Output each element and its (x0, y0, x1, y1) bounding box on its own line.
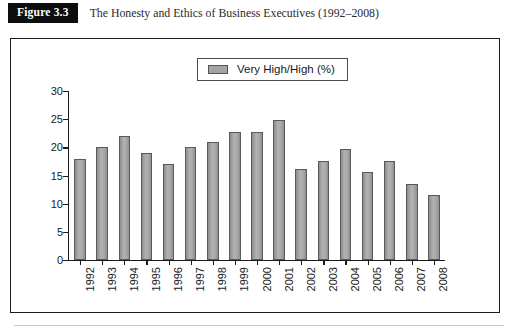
x-tick-label-2007: 2007 (416, 267, 427, 291)
y-tick-mark (63, 147, 68, 148)
bar-1997 (185, 147, 197, 260)
bar-2003 (318, 161, 330, 260)
figure-caption-row: Figure 3.3 The Honesty and Ethics of Bus… (0, 0, 518, 26)
bar-1998 (207, 142, 219, 260)
x-tick-label-1999: 1999 (239, 267, 250, 291)
bar-2004 (340, 149, 352, 260)
y-tick-mark (63, 204, 68, 205)
y-tick-label-20: 20 (51, 142, 63, 153)
bar-2001 (273, 120, 285, 260)
x-tick-label-2008: 2008 (438, 267, 449, 291)
y-tick-mark (63, 232, 68, 233)
x-tick-mark (80, 260, 81, 265)
bar-2005 (362, 172, 374, 260)
x-tick-label-2001: 2001 (284, 267, 295, 291)
x-tick-mark (345, 260, 346, 265)
page-bottom-rule (14, 325, 504, 326)
y-axis-labels: 051015202530 (33, 91, 63, 259)
x-tick-label-1998: 1998 (217, 267, 228, 291)
bars-layer (69, 91, 445, 260)
bar-2007 (406, 184, 418, 260)
y-tick-mark (63, 260, 68, 261)
bar-1999 (229, 132, 241, 260)
figure-number-badge: Figure 3.3 (8, 3, 78, 24)
x-tick-mark (146, 260, 147, 265)
y-tick-label-30: 30 (51, 86, 63, 97)
legend-label-very-high-high: Very High/High (%) (237, 63, 335, 75)
bar-1992 (74, 159, 86, 260)
x-tick-label-1992: 1992 (85, 267, 96, 291)
bar-2002 (295, 169, 307, 260)
x-tick-mark (412, 260, 413, 265)
x-tick-mark (301, 260, 302, 265)
x-tick-label-1993: 1993 (107, 267, 118, 291)
bar-2008 (428, 195, 440, 260)
y-tick-label-10: 10 (51, 198, 63, 209)
x-tick-mark (323, 260, 324, 265)
x-tick-label-1994: 1994 (129, 267, 140, 291)
x-tick-mark (235, 260, 236, 265)
x-tick-mark (213, 260, 214, 265)
bar-1995 (141, 153, 153, 260)
figure-caption-text: The Honesty and Ethics of Business Execu… (90, 6, 379, 21)
chart-legend: Very High/High (%) (197, 58, 348, 81)
x-tick-mark (124, 260, 125, 265)
y-tick-label-25: 25 (51, 114, 63, 125)
x-tick-mark (279, 260, 280, 265)
bar-2000 (251, 132, 263, 260)
chart-plot-area: Very High/High (%) 051015202530 19921993… (11, 39, 501, 314)
figure-frame: Very High/High (%) 051015202530 19921993… (10, 38, 500, 313)
legend-swatch-icon (208, 65, 228, 74)
x-tick-mark (257, 260, 258, 265)
x-tick-label-2002: 2002 (306, 267, 317, 291)
x-tick-label-1995: 1995 (151, 267, 162, 291)
y-tick-label-15: 15 (51, 170, 63, 181)
x-tick-label-1997: 1997 (195, 267, 206, 291)
y-tick-mark (63, 91, 68, 92)
bar-1994 (119, 136, 131, 260)
x-tick-mark (102, 260, 103, 265)
y-tick-mark (63, 119, 68, 120)
x-tick-label-2006: 2006 (394, 267, 405, 291)
x-tick-label-2003: 2003 (328, 267, 339, 291)
x-tick-label-2004: 2004 (350, 267, 361, 291)
x-tick-label-1996: 1996 (173, 267, 184, 291)
bar-2006 (384, 161, 396, 260)
bar-1993 (96, 147, 108, 260)
bar-1996 (163, 164, 175, 260)
x-tick-mark (368, 260, 369, 265)
x-tick-mark (390, 260, 391, 265)
x-tick-label-2000: 2000 (262, 267, 273, 291)
x-tick-mark (191, 260, 192, 265)
x-axis-labels: 1992199319941995199619971998199920002001… (69, 267, 445, 312)
x-tick-label-2005: 2005 (372, 267, 383, 291)
x-tick-mark (169, 260, 170, 265)
x-tick-mark (434, 260, 435, 265)
y-tick-mark (63, 176, 68, 177)
